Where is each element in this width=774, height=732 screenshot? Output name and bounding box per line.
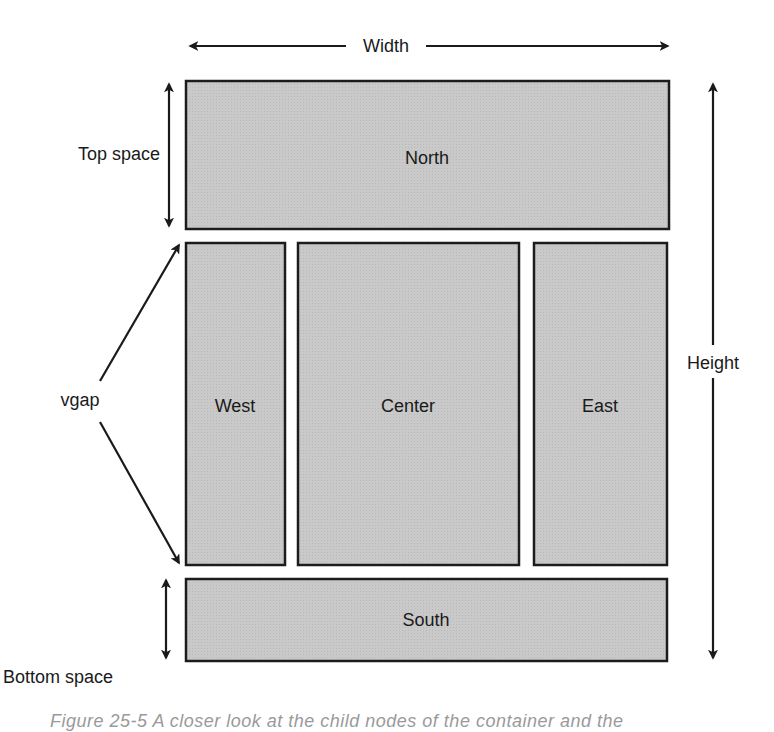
svg-text:South: South — [402, 610, 449, 630]
svg-text:North: North — [405, 148, 449, 168]
vgap-arrows — [100, 245, 179, 563]
region-north: North — [186, 81, 669, 229]
svg-text:East: East — [582, 396, 618, 416]
top-space-label: Top space — [78, 144, 160, 164]
region-east: East — [534, 243, 667, 565]
svg-text:Width: Width — [363, 36, 409, 56]
svg-text:Bottom space: Bottom space — [3, 667, 113, 687]
width-label: Width — [363, 36, 409, 56]
svg-text:vgap: vgap — [60, 390, 99, 410]
svg-text:West: West — [215, 396, 256, 416]
region-west: West — [186, 243, 285, 565]
vgap-label: vgap — [60, 390, 99, 410]
region-center: Center — [298, 243, 519, 565]
svg-text:Top space: Top space — [78, 144, 160, 164]
figure-caption: Figure 25-5 A closer look at the child n… — [50, 711, 624, 732]
svg-text:Center: Center — [381, 396, 435, 416]
height-label: Height — [687, 353, 739, 373]
svg-text:Height: Height — [687, 353, 739, 373]
region-south: South — [186, 579, 667, 661]
bottom-space-label: Bottom space — [3, 667, 113, 687]
